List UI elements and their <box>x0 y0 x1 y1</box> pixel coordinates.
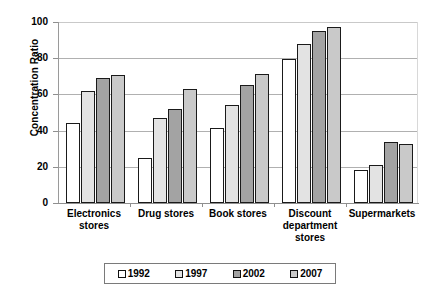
y-tick-mark <box>53 22 58 23</box>
legend-label: 1992 <box>128 269 150 279</box>
legend-swatch-icon <box>175 270 183 278</box>
bar <box>153 118 167 203</box>
y-tick-label: 60 <box>2 89 48 99</box>
y-tick-mark <box>53 58 58 59</box>
bar <box>66 123 80 203</box>
x-tick-mark <box>346 203 347 207</box>
bar-group <box>66 22 125 203</box>
legend-item[interactable]: 2007 <box>290 269 322 279</box>
legend-label: 1997 <box>185 269 207 279</box>
bar <box>297 44 311 203</box>
y-tick-label: 100 <box>2 17 48 27</box>
y-tick-mark <box>53 94 58 95</box>
bar <box>210 128 224 203</box>
plot-area <box>58 22 418 203</box>
bar <box>282 59 296 203</box>
x-tick-mark <box>274 203 275 207</box>
y-tick-label: 40 <box>2 126 48 136</box>
bar <box>96 78 110 203</box>
bar <box>312 31 326 203</box>
y-tick-label: 80 <box>2 53 48 63</box>
bar-group <box>138 22 197 203</box>
bar <box>168 109 182 203</box>
y-tick-label: 20 <box>2 162 48 172</box>
legend-item[interactable]: 2002 <box>233 269 265 279</box>
x-tick-mark <box>130 203 131 207</box>
legend-item[interactable]: 1997 <box>175 269 207 279</box>
bar <box>354 170 368 203</box>
legend-swatch-icon <box>118 270 126 278</box>
bar <box>138 158 152 203</box>
bar <box>111 75 125 203</box>
bar <box>225 105 239 203</box>
bar <box>369 165 383 203</box>
bar <box>255 74 269 203</box>
x-tick-label: Supermarkets <box>340 208 424 220</box>
legend-swatch-icon <box>233 270 241 278</box>
bar <box>384 142 398 203</box>
y-tick-label: 0 <box>2 198 48 208</box>
legend-label: 2002 <box>243 269 265 279</box>
bar <box>327 27 341 203</box>
legend-swatch-icon <box>290 270 298 278</box>
y-tick-mark <box>53 203 58 204</box>
x-tick-label-line: stores <box>268 232 352 244</box>
bar-group <box>210 22 269 203</box>
bar-chart: Concentration Ratio 020406080100 Electro… <box>0 0 439 300</box>
bar-group <box>282 22 341 203</box>
bar <box>399 144 413 203</box>
y-tick-mark <box>53 131 58 132</box>
x-tick-mark <box>202 203 203 207</box>
bar <box>81 91 95 203</box>
legend-item[interactable]: 1992 <box>118 269 150 279</box>
x-tick-label-line: Supermarkets <box>340 208 424 220</box>
legend-label: 2007 <box>300 269 322 279</box>
y-tick-mark <box>53 167 58 168</box>
x-tick-label-line: department <box>268 220 352 232</box>
bar <box>183 89 197 203</box>
bar-group <box>354 22 413 203</box>
bar <box>240 85 254 203</box>
chart-legend: 1992199720022007 <box>104 263 336 284</box>
x-axis-line <box>57 203 419 204</box>
x-tick-label-line: stores <box>52 220 136 232</box>
